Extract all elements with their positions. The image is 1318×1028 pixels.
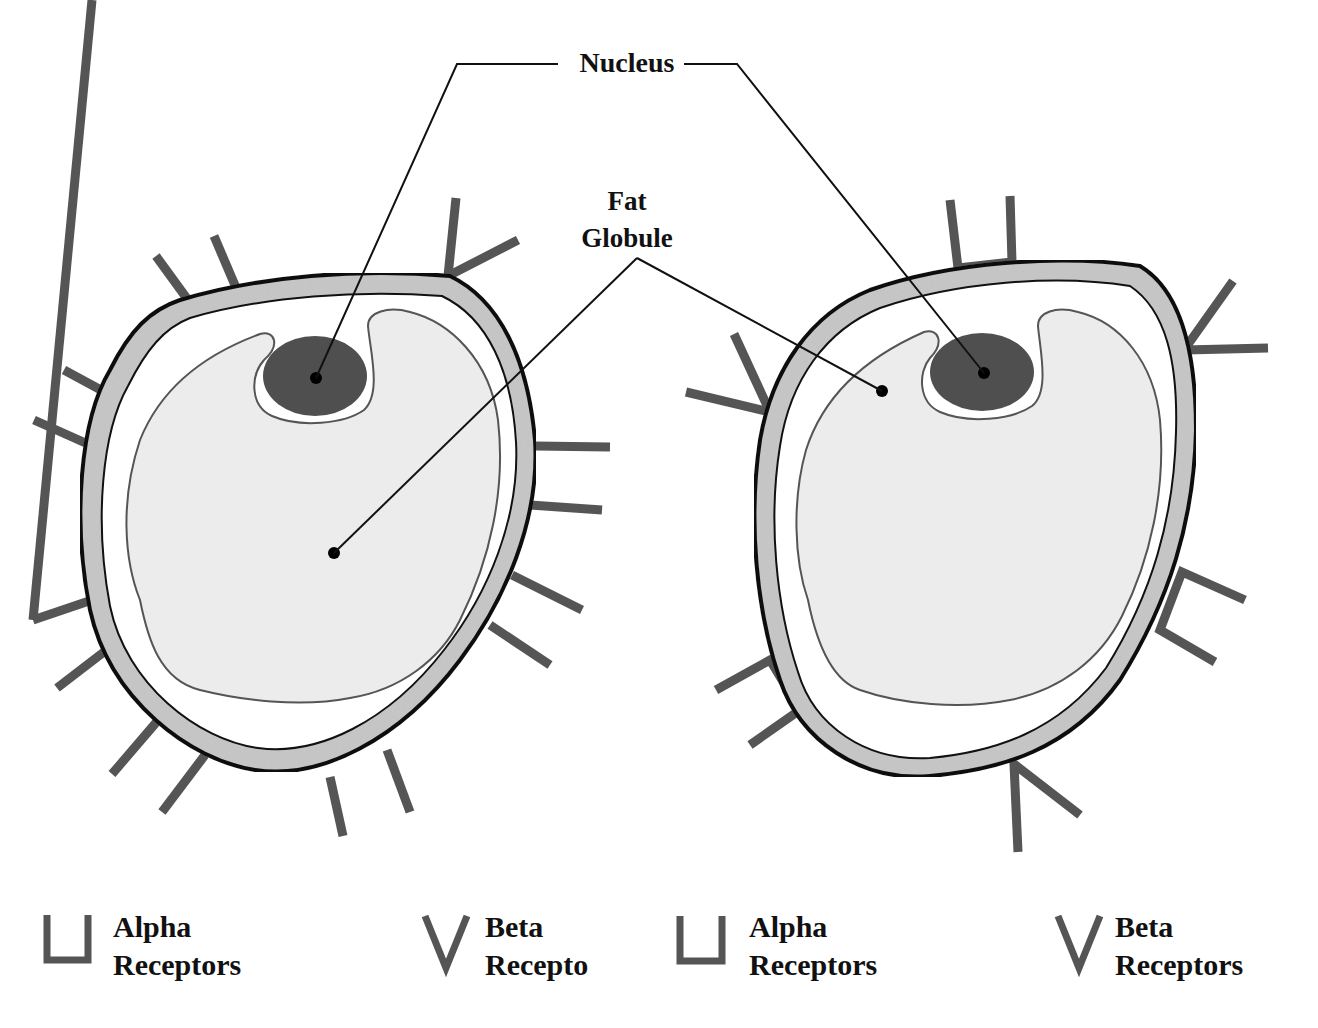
receptor-stick <box>512 575 582 610</box>
fat-cell-diagram: Nucleus Fat Globule <box>0 0 1318 1028</box>
legend-line1: Beta <box>1115 908 1243 946</box>
receptor-stick <box>490 625 550 665</box>
legend-line1: Beta <box>485 908 611 946</box>
legend-line2: Receptors <box>113 946 241 984</box>
receptor-stick <box>214 236 237 290</box>
legend-item-beta-left: Beta Recepto <box>485 908 611 984</box>
beta-receptor-icon <box>1058 916 1100 968</box>
receptor-stick <box>330 777 343 836</box>
receptor-stick <box>387 750 410 812</box>
right-cell <box>686 196 1268 852</box>
beta-receptor <box>1014 764 1080 852</box>
legend-item-alpha-right: Alpha Receptors <box>749 908 877 984</box>
beta-receptor <box>686 334 770 412</box>
legend-item-beta-right: Beta Receptors <box>1115 908 1243 984</box>
fat-label-line1: Fat <box>608 186 647 216</box>
beta-receptor <box>1184 281 1268 350</box>
receptor-stick <box>156 256 188 300</box>
legend-line1: Alpha <box>113 908 241 946</box>
receptor-stick <box>448 198 456 276</box>
receptor-stick <box>34 420 90 445</box>
legend-line2: Receptors <box>749 946 877 984</box>
alpha-receptor <box>1160 572 1245 662</box>
fat-label-line2: Globule <box>581 223 673 253</box>
alpha-receptor-icon <box>47 915 88 960</box>
alpha-receptor-icon <box>680 916 722 961</box>
left-cell <box>33 0 610 836</box>
alpha-receptor <box>950 196 1012 268</box>
receptor-stick <box>162 755 205 812</box>
beta-receptor-icon <box>425 916 467 968</box>
receptor-stick <box>112 718 160 774</box>
legend-item-alpha-left: Alpha Receptors <box>113 908 241 984</box>
receptor-stick <box>530 505 602 510</box>
legend-line1: Alpha <box>749 908 877 946</box>
nucleus-label: Nucleus <box>580 47 675 78</box>
receptor-stick <box>448 240 518 276</box>
legend-line2: Recepto <box>485 946 611 984</box>
receptor-stick <box>33 600 92 620</box>
legend-line2: Receptors <box>1115 946 1243 984</box>
receptor-stick <box>535 446 610 447</box>
